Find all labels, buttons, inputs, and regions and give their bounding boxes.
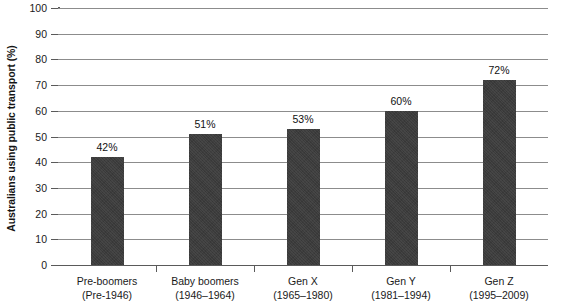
x-axis-tick — [254, 265, 255, 272]
category-name: Gen Z — [484, 275, 513, 287]
y-axis-tick-label: 50 — [16, 131, 47, 143]
bar-value-label: 72% — [488, 64, 509, 76]
bar-chart: Australians using public transport (%) 0… — [0, 0, 564, 307]
x-axis-category-label: Baby boomers(1946–1964) — [171, 274, 239, 302]
x-axis-line — [58, 265, 548, 267]
gridline — [58, 34, 548, 35]
category-years: (Pre-1946) — [77, 288, 138, 302]
category-name: Pre-boomers — [77, 275, 138, 287]
gridline — [58, 8, 548, 9]
y-axis-tick-label: 80 — [16, 53, 47, 65]
category-name: Gen Y — [386, 275, 416, 287]
category-name: Baby boomers — [171, 275, 239, 287]
plot-area: 42%51%53%60%72% — [58, 8, 548, 265]
y-axis-tick — [51, 137, 58, 138]
y-axis-tick — [51, 214, 58, 215]
x-axis-category-label: Gen X(1965–1980) — [273, 274, 333, 302]
category-years: (1981–1994) — [371, 288, 431, 302]
y-axis-tick-label: 60 — [16, 105, 47, 117]
y-axis-tick-label: 100 — [16, 2, 47, 14]
y-axis-tick-label: 40 — [16, 156, 47, 168]
bar — [385, 111, 418, 265]
y-axis-tick — [51, 34, 58, 35]
bar — [483, 80, 516, 265]
y-axis-tick-label: 20 — [16, 208, 47, 220]
y-axis-tick — [51, 59, 58, 60]
gridline — [58, 59, 548, 60]
y-axis-tick-label: 10 — [16, 233, 47, 245]
y-axis-tick-label: 30 — [16, 182, 47, 194]
y-axis-tick-label: 0 — [16, 259, 47, 271]
y-axis-tick — [51, 8, 58, 9]
gridline — [58, 111, 548, 112]
category-years: (1965–1980) — [273, 288, 333, 302]
bar — [91, 157, 124, 265]
category-years: (1995–2009) — [469, 288, 529, 302]
x-axis-category-label: Gen Z(1995–2009) — [469, 274, 529, 302]
y-axis-tick — [51, 265, 58, 266]
y-axis-tick — [51, 188, 58, 189]
bar-value-label: 51% — [194, 118, 215, 130]
bar-value-label: 60% — [390, 95, 411, 107]
y-axis-tick-label: 70 — [16, 79, 47, 91]
x-axis-category-label: Pre-boomers(Pre-1946) — [77, 274, 138, 302]
category-name: Gen X — [288, 275, 318, 287]
x-axis-category-label: Gen Y(1981–1994) — [371, 274, 431, 302]
y-axis-tick — [51, 162, 58, 163]
y-axis-tick — [51, 239, 58, 240]
x-axis-tick — [450, 265, 451, 272]
category-years: (1946–1964) — [171, 288, 239, 302]
x-axis-tick — [156, 265, 157, 272]
y-axis-tick — [51, 111, 58, 112]
x-axis-tick — [352, 265, 353, 272]
bar-value-label: 42% — [96, 141, 117, 153]
bar — [287, 129, 320, 265]
gridline — [58, 85, 548, 86]
bar — [189, 134, 222, 265]
bar-value-label: 53% — [292, 113, 313, 125]
y-axis-tick — [51, 85, 58, 86]
y-axis-tick-label: 90 — [16, 28, 47, 40]
